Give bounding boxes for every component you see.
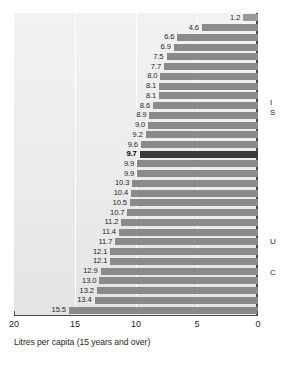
bar — [160, 73, 258, 80]
bar-value-label: 11.7 — [98, 238, 112, 246]
bar-value-label: 9.6 — [128, 141, 138, 149]
bar-row: 10.5 — [14, 199, 258, 206]
bar-row: 8.9 — [14, 112, 258, 119]
bar-value-label: 8.0 — [147, 72, 157, 80]
bar-value-label: 6.9 — [161, 43, 171, 51]
bar-row: 8.1 — [14, 92, 258, 99]
bar — [95, 297, 258, 304]
bar — [177, 34, 258, 41]
bar-value-label: 13.2 — [80, 287, 94, 295]
right-edge-label: S — [270, 108, 275, 117]
bar — [164, 63, 258, 70]
bar — [131, 190, 258, 197]
bar-value-label: 10.3 — [115, 180, 129, 188]
bar-row: 10.4 — [14, 190, 258, 197]
bar-value-label: 11.4 — [102, 228, 116, 236]
x-axis-tick-start — [14, 311, 15, 316]
bar-rows: 1.24.66.66.97.57.78.08.18.18.68.99.09.29… — [14, 13, 258, 315]
bar-row: 6.9 — [14, 44, 258, 51]
bar-row: 12.1 — [14, 248, 258, 255]
bar-row: 9.7 — [14, 151, 258, 158]
bar-row: 11.7 — [14, 238, 258, 245]
plot-area: 1.24.66.66.97.57.78.08.18.18.68.99.09.29… — [14, 13, 258, 315]
bar — [202, 24, 258, 31]
bar-value-label: 12.1 — [93, 257, 107, 265]
bar-row: 8.1 — [14, 83, 258, 90]
x-tick-5: 5 — [194, 319, 199, 329]
bar-value-label: 6.6 — [164, 33, 174, 41]
bar-row: 12.1 — [14, 258, 258, 265]
bar-value-label: 9.7 — [126, 150, 136, 158]
bar-value-label: 8.9 — [136, 111, 146, 119]
bar-row: 8.0 — [14, 73, 258, 80]
bar — [121, 219, 258, 226]
bar-value-label: 11.2 — [105, 218, 119, 226]
bar-value-label: 7.5 — [153, 53, 163, 61]
bar — [127, 209, 258, 216]
bar-row: 11.2 — [14, 219, 258, 226]
bar — [146, 131, 258, 138]
right-edge-label: C — [270, 268, 276, 277]
bar-row: 9.9 — [14, 160, 258, 167]
bar-value-label: 12.1 — [93, 248, 107, 256]
bar-value-label: 9.9 — [124, 170, 134, 178]
bar-row: 9.2 — [14, 131, 258, 138]
bar — [159, 92, 258, 99]
bar — [141, 141, 258, 148]
bar-highlighted — [140, 151, 258, 158]
bar — [174, 44, 258, 51]
bar-row: 1.2 — [14, 14, 258, 21]
x-tick-0: 0 — [255, 319, 260, 329]
x-axis-tick-end — [257, 311, 258, 316]
bar-value-label: 9.9 — [124, 160, 134, 168]
bar-row: 7.5 — [14, 53, 258, 60]
bar — [137, 160, 258, 167]
bar-row: 6.6 — [14, 34, 258, 41]
bar-row: 4.6 — [14, 24, 258, 31]
bar-value-label: 13.0 — [82, 277, 96, 285]
bar-row: 10.3 — [14, 180, 258, 187]
bar-value-label: 10.7 — [110, 209, 124, 217]
bar — [243, 14, 258, 21]
bar-value-label: 7.7 — [151, 63, 161, 71]
bar-value-label: 8.6 — [140, 102, 150, 110]
right-edge-label: U — [270, 237, 276, 246]
bar-row: 9.9 — [14, 170, 258, 177]
bar-row: 12.9 — [14, 268, 258, 275]
bar — [99, 277, 258, 284]
bar — [130, 199, 258, 206]
bar-row: 15.5 — [14, 307, 258, 314]
bar-row: 8.6 — [14, 102, 258, 109]
bar-value-label: 9.2 — [133, 131, 143, 139]
bar — [132, 180, 258, 187]
bar-value-label: 8.1 — [146, 92, 156, 100]
bar — [97, 287, 258, 294]
right-edge-label: I — [270, 98, 272, 107]
x-axis-label: Litres per capita (15 years and over) — [14, 337, 150, 347]
bar-value-label: 1.2 — [230, 14, 240, 22]
bar-value-label: 10.5 — [113, 199, 127, 207]
x-axis-line — [14, 315, 258, 316]
bar-row: 10.7 — [14, 209, 258, 216]
bar-row: 7.7 — [14, 63, 258, 70]
top-clipped-text — [0, 0, 283, 3]
x-tick-10: 10 — [131, 319, 141, 329]
bar-value-label: 15.5 — [52, 306, 66, 314]
bar-row: 11.4 — [14, 229, 258, 236]
x-tick-15: 15 — [70, 319, 80, 329]
bar-chart-figure: 1.24.66.66.97.57.78.08.18.18.68.99.09.29… — [0, 0, 283, 380]
bar-row: 9.6 — [14, 141, 258, 148]
bar-value-label: 8.1 — [146, 82, 156, 90]
bar-row: 9.0 — [14, 122, 258, 129]
bar-value-label: 10.4 — [114, 189, 128, 197]
bar — [101, 268, 258, 275]
bar — [110, 258, 258, 265]
bar — [159, 83, 258, 90]
bar — [167, 53, 259, 60]
bar — [110, 248, 258, 255]
bar — [69, 307, 258, 314]
bar-value-label: 13.4 — [77, 296, 91, 304]
bar-row: 13.4 — [14, 297, 258, 304]
bar — [119, 229, 258, 236]
bar — [137, 170, 258, 177]
